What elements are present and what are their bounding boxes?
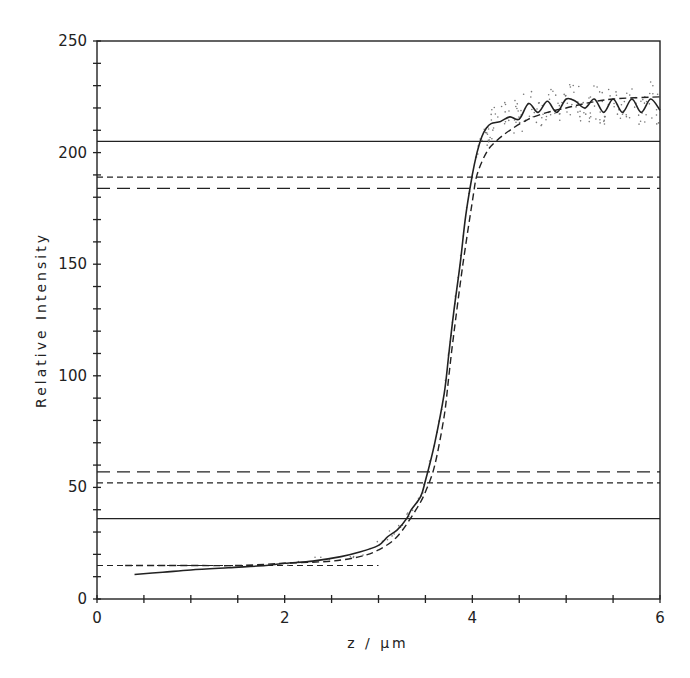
raw-data-point <box>588 97 590 99</box>
raw-data-point <box>490 114 492 116</box>
raw-data-point <box>613 103 615 105</box>
y-tick-label: 50 <box>68 478 87 496</box>
raw-data-point <box>504 123 506 125</box>
axes <box>97 41 660 599</box>
y-tick-label: 0 <box>77 590 87 608</box>
raw-data-points <box>287 81 659 566</box>
raw-data-point <box>546 116 548 118</box>
tick-labels: 0501001502002500246 <box>58 32 664 627</box>
raw-data-point <box>565 95 567 97</box>
raw-data-point <box>599 119 601 121</box>
raw-data-point <box>487 134 489 136</box>
raw-data-point <box>513 132 515 134</box>
raw-data-point <box>559 113 561 115</box>
raw-data-point <box>523 94 525 96</box>
raw-data-point <box>533 112 535 114</box>
raw-data-point <box>578 86 580 88</box>
raw-data-point <box>613 106 615 108</box>
x-tick-label: 0 <box>92 609 102 627</box>
raw-data-point <box>642 99 644 101</box>
raw-data-point <box>542 114 544 116</box>
plot-frame <box>97 41 660 599</box>
raw-data-point <box>629 94 631 96</box>
raw-data-point <box>585 113 587 115</box>
raw-data-point <box>601 92 603 94</box>
raw-data-point <box>350 556 352 558</box>
raw-data-point <box>314 557 316 559</box>
raw-data-point <box>353 556 355 558</box>
raw-data-point <box>398 525 400 527</box>
raw-data-point <box>320 556 322 558</box>
raw-data-point <box>593 85 595 87</box>
raw-data-point <box>541 124 543 126</box>
raw-data-point <box>656 123 658 125</box>
raw-data-point <box>620 117 622 119</box>
raw-data-point <box>645 114 647 116</box>
fitted-profile-line <box>125 97 660 566</box>
raw-data-point <box>489 137 491 139</box>
raw-data-point <box>570 86 572 88</box>
raw-data-point <box>604 116 606 118</box>
raw-data-point <box>559 105 561 107</box>
raw-data-point <box>570 114 572 116</box>
raw-data-point <box>626 92 628 94</box>
raw-data-point <box>554 113 556 115</box>
raw-data-point <box>596 86 598 88</box>
raw-data-point <box>508 110 510 112</box>
raw-data-point <box>518 116 520 118</box>
chart: 0501001502002500246 z / µm Relative Inte… <box>0 0 690 678</box>
raw-data-point <box>599 122 601 124</box>
raw-data-point <box>657 93 659 95</box>
raw-data-point <box>638 114 640 116</box>
data-series <box>125 97 660 575</box>
y-tick-label: 250 <box>58 32 87 50</box>
raw-data-point <box>615 91 617 93</box>
raw-data-point <box>504 102 506 104</box>
raw-data-point <box>644 121 646 123</box>
raw-data-point <box>491 119 493 121</box>
raw-data-point <box>559 119 561 121</box>
raw-data-point <box>590 96 592 98</box>
raw-data-point <box>577 111 579 113</box>
raw-data-point <box>563 94 565 96</box>
y-tick-label: 100 <box>58 367 87 385</box>
raw-data-point <box>579 111 581 113</box>
raw-data-point <box>550 114 552 116</box>
raw-data-point <box>491 109 493 111</box>
raw-data-point <box>626 116 628 118</box>
raw-data-point <box>516 103 518 105</box>
raw-data-point <box>488 128 490 130</box>
raw-data-point <box>573 91 575 93</box>
raw-data-point <box>505 121 507 123</box>
raw-data-point <box>629 117 631 119</box>
reference-lines <box>97 141 660 565</box>
raw-data-point <box>501 106 503 108</box>
raw-data-point <box>391 535 393 537</box>
raw-data-point <box>575 106 577 108</box>
y-axis-label: Relative Intensity <box>33 232 49 408</box>
raw-data-point <box>407 512 409 514</box>
raw-data-point <box>377 541 379 543</box>
raw-data-point <box>572 85 574 87</box>
measured-profile-line <box>135 98 660 574</box>
raw-data-point <box>609 95 611 97</box>
raw-data-point <box>567 102 569 104</box>
raw-data-point <box>531 91 533 93</box>
raw-data-point <box>634 106 636 108</box>
raw-data-point <box>595 118 597 120</box>
raw-data-point <box>638 123 640 125</box>
x-axis-label: z / µm <box>347 635 409 651</box>
raw-data-point <box>488 139 490 141</box>
raw-data-point <box>530 96 532 98</box>
raw-data-point <box>656 114 658 116</box>
raw-data-point <box>579 116 581 118</box>
raw-data-point <box>652 93 654 95</box>
raw-data-point <box>287 565 289 567</box>
raw-data-point <box>552 90 554 92</box>
raw-data-point <box>608 89 610 91</box>
raw-data-point <box>571 104 573 106</box>
raw-data-point <box>536 122 538 124</box>
raw-data-point <box>481 140 483 142</box>
raw-data-point <box>631 88 633 90</box>
raw-data-point <box>599 111 601 113</box>
